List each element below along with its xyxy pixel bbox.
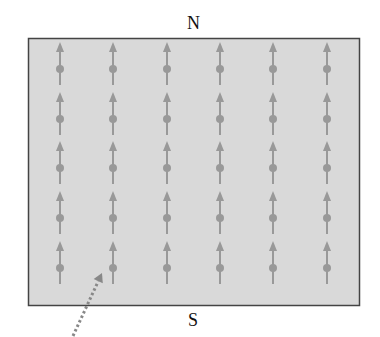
field-region xyxy=(29,39,360,306)
magnetic-field-diagram xyxy=(0,0,380,337)
